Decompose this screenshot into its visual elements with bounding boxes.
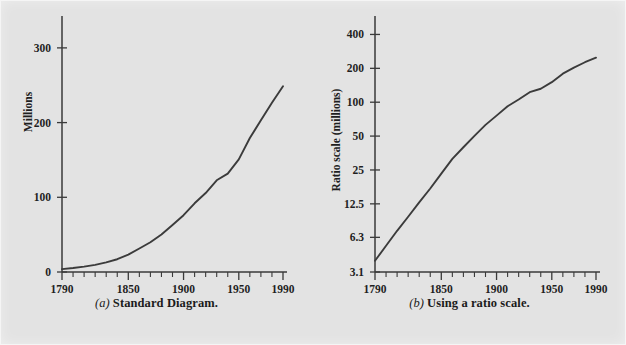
x-tick-label: 1790 <box>51 283 74 295</box>
chart-panel-b: 3.16.312.52550100200400 1790185019001950… <box>313 0 626 345</box>
caption-text-b: Using a ratio scale. <box>427 296 530 310</box>
y-tick-label: 200 <box>347 62 365 74</box>
y-tick-label: 0 <box>45 266 51 278</box>
x-tick-label: 1850 <box>117 283 140 295</box>
y-tick-label: 100 <box>347 96 365 108</box>
y-tick-label: 200 <box>34 117 52 129</box>
x-tick-label: 1990 <box>272 283 295 295</box>
y-axis-title-b: Ratio scale (millions) <box>330 88 343 191</box>
x-tick-label: 1900 <box>485 283 508 295</box>
figure-page: 0100200300 17901850190019501990 Millions… <box>0 0 626 345</box>
y-tick-label: 400 <box>347 28 365 40</box>
x-tick-label: 1790 <box>364 283 387 295</box>
axes-group-b <box>375 16 600 272</box>
caption-b: (b)Using a ratio scale. <box>313 296 626 311</box>
y-tick-label: 100 <box>34 191 52 203</box>
y-tick-label: 50 <box>353 130 365 142</box>
population-line-a <box>62 86 283 269</box>
y-axis-title-a: Millions <box>22 91 34 132</box>
y-tick-label: 12.5 <box>344 198 364 210</box>
x-tick-label: 1950 <box>540 283 563 295</box>
standard-diagram-plot: 0100200300 17901850190019501990 Millions <box>0 0 313 300</box>
caption-letter-b: (b) <box>409 296 424 310</box>
x-tick-label: 1900 <box>172 283 195 295</box>
x-ticks-b: 17901850190019501990 <box>364 272 608 295</box>
x-tick-label: 1990 <box>585 283 608 295</box>
x-tick-label: 1850 <box>430 283 453 295</box>
caption-text-a: Standard Diagram. <box>113 296 218 310</box>
ratio-scale-plot: 3.16.312.52550100200400 1790185019001950… <box>313 0 626 300</box>
y-tick-label: 3.1 <box>350 266 365 278</box>
population-line-b <box>375 58 596 261</box>
y-tick-label: 25 <box>353 164 365 176</box>
axes-group-a <box>62 16 287 272</box>
caption-a: (a)Standard Diagram. <box>0 296 313 311</box>
chart-panel-a: 0100200300 17901850190019501990 Millions… <box>0 0 313 345</box>
y-tick-label: 300 <box>34 42 52 54</box>
y-tick-label: 6.3 <box>350 231 365 243</box>
x-ticks-a: 17901850190019501990 <box>51 272 295 295</box>
caption-letter-a: (a) <box>95 296 110 310</box>
x-tick-label: 1950 <box>227 283 250 295</box>
